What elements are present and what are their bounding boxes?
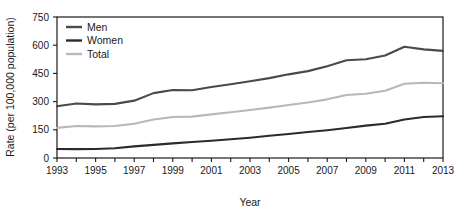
x-tick-label: 1997 xyxy=(123,165,146,176)
x-tick-label: 2011 xyxy=(394,165,416,176)
x-tick-label: 1999 xyxy=(162,165,185,176)
x-tick-label: 2007 xyxy=(316,165,339,176)
series-line-total xyxy=(57,83,443,128)
y-tick-label: 600 xyxy=(32,40,49,51)
y-axis-ticks: 0150300450600750 xyxy=(32,12,57,164)
x-tick-label: 2013 xyxy=(432,165,455,176)
legend-label-total: Total xyxy=(87,48,109,60)
x-tick-label: 2005 xyxy=(277,165,300,176)
series-line-men xyxy=(57,47,443,107)
legend-label-women: Women xyxy=(87,34,123,46)
x-axis-title: Year xyxy=(239,196,261,208)
y-tick-label: 300 xyxy=(32,96,49,107)
x-tick-label: 1993 xyxy=(46,165,69,176)
y-tick-label: 750 xyxy=(32,12,49,23)
x-axis-ticks: 1993199519971999200120032005200720092011… xyxy=(46,158,455,176)
y-tick-label: 150 xyxy=(32,124,49,135)
line-chart: 0150300450600750 19931995199719992001200… xyxy=(0,0,459,216)
x-tick-label: 2001 xyxy=(200,165,223,176)
x-tick-label: 2009 xyxy=(355,165,378,176)
chart-figure: 0150300450600750 19931995199719992001200… xyxy=(0,0,459,216)
x-tick-label: 1995 xyxy=(84,165,107,176)
legend-label-men: Men xyxy=(87,21,108,33)
x-tick-label: 2003 xyxy=(239,165,262,176)
series-line-women xyxy=(57,116,443,149)
data-series-group xyxy=(57,47,443,149)
y-axis-title: Rate (per 100,000 population) xyxy=(4,17,16,157)
y-tick-label: 0 xyxy=(43,153,49,164)
chart-legend: MenWomenTotal xyxy=(66,21,123,60)
y-tick-label: 450 xyxy=(32,68,49,79)
